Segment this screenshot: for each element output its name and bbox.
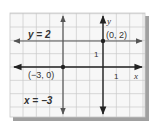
label-y-equals-2: y = 2 — [27, 29, 51, 40]
y-tick-label-1: 1 — [94, 50, 99, 59]
y-axis-label: y — [106, 16, 111, 26]
label-point-0-2: (0, 2) — [106, 30, 127, 40]
coordinate-graph-figure: y = 2 x = −3 (0, 2) (−3, 0) y x 1 1 — [0, 0, 154, 129]
point-neg3-0 — [61, 65, 65, 69]
label-x-equals-neg3: x = −3 — [23, 95, 53, 106]
graph-svg: y = 2 x = −3 (0, 2) (−3, 0) y x 1 1 — [0, 0, 154, 129]
point-0-2 — [101, 39, 105, 43]
x-axis-label: x — [133, 71, 138, 81]
label-point-neg3-0: (−3, 0) — [28, 70, 54, 80]
x-tick-label-1: 1 — [114, 72, 119, 81]
